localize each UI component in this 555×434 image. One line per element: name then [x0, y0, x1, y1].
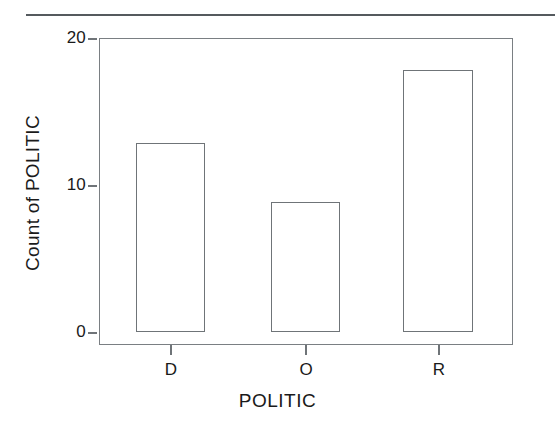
y-axis-tick-10 [88, 185, 97, 187]
x-axis-tick-O [305, 345, 307, 355]
bar-chart-figure: 20 10 0 D O R POLITIC Count of POLITIC [0, 0, 555, 434]
x-axis-tick-D [170, 345, 172, 355]
plot-area-frame [99, 38, 513, 345]
chart-page: 20 10 0 D O R POLITIC Count of POLITIC [0, 0, 555, 434]
x-axis-title: POLITIC [0, 390, 555, 412]
y-axis-tick-20 [88, 38, 97, 40]
y-axis-title: Count of POLITIC [22, 68, 44, 318]
y-axis-tick-0 [88, 332, 97, 334]
x-axis-label-D: D [141, 361, 201, 378]
x-axis-label-O: O [276, 361, 336, 378]
x-axis-tick-R [438, 345, 440, 355]
x-axis-label-R: R [409, 361, 469, 378]
y-axis-label-20: 20 [26, 29, 86, 46]
y-axis-label-0: 0 [26, 323, 86, 340]
